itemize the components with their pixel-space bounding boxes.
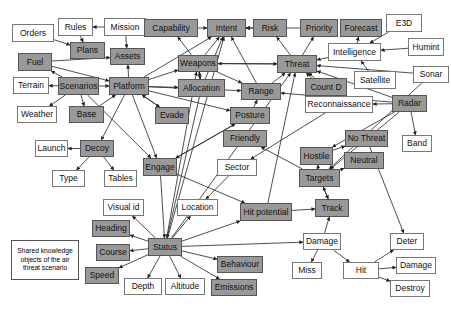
node-assets: Assets [110,48,145,65]
node-hitpotential: Hit potential [240,203,292,221]
edge-engage-to-status [161,176,165,238]
node-evade: Evade [155,107,189,124]
node-depth: Depth [124,278,162,295]
edge-evade-to-platform [142,95,159,107]
node-risk: Risk [253,19,287,37]
edge-range-to-threat [272,73,285,83]
edge-platform-to-assets [128,65,129,77]
node-fuel: Fuel [18,53,52,71]
edge-status-to-visualid [132,216,155,238]
node-mission: Mission [104,18,146,36]
node-threat: Threat [277,55,317,73]
edge-mission-to-assets [126,36,127,48]
node-deter: Deter [390,233,424,250]
legend-line-2: objects of the air [12,256,78,264]
edge-hostile-to-nothreat [333,146,345,150]
node-priority: Priority [300,19,338,37]
edge-scenarios-to-base [81,95,84,106]
node-launch: Launch [35,140,68,157]
edge-weapons-to-allocation [199,72,200,79]
edge-status-to-damage [182,242,303,246]
node-forecast: Forecast [340,19,382,37]
edge-damage-to-track [325,217,330,233]
node-speed: Speed [85,267,119,284]
node-rules: Rules [58,18,93,36]
edge-base-to-platform [99,95,115,106]
node-base: Base [69,106,104,123]
node-engage: Engage [143,158,177,176]
node-sector: Sector [217,159,257,176]
node-platform: Platform [109,77,149,95]
edge-damage-to-hit [333,250,349,262]
node-band: Band [402,135,432,152]
node-allocation: Allocation [178,79,225,97]
node-damage: Damage [303,233,341,250]
node-hit: Hit [343,262,379,279]
node-behaviour: Behaviour [217,256,263,273]
node-neutral: Neutral [344,152,384,169]
edge-hit-to-deter [374,250,393,262]
node-location: Location [177,199,218,216]
node-type: Type [52,170,85,187]
node-destroy: Destroy [390,280,430,297]
node-sonar: Sonar [413,66,449,83]
edge-decoy-to-type [77,157,89,170]
node-nothreat: No Threat [345,130,388,147]
edge-intelligence-to-threat [317,58,328,60]
node-tables: Tables [104,170,137,187]
edge-damage-to-miss [311,250,317,262]
node-intelligence: Intelligence [328,43,381,61]
node-hostile: Hostile [300,147,333,165]
node-scenarios: Scenarios [58,77,99,95]
edge-weapons-to-capability [178,37,192,55]
node-posture: Posture [230,107,270,124]
node-radar: Radar [392,95,427,112]
edge-track-to-targets [323,187,328,199]
node-orders: Orders [12,24,54,42]
edge-status-to-course [130,249,148,251]
edge-targets-to-friendly [261,147,302,169]
edge-status-to-altitude [170,256,181,278]
edge-hit-to-damage2 [379,267,396,269]
edge-threat-to-risk [277,37,291,55]
node-countd: Count D [305,78,347,96]
legend-box: Shared knowledge objects of the air thre… [11,240,79,280]
node-altitude: Altitude [165,278,205,295]
edge-scenarios-to-weather [49,95,65,106]
edge-status-to-location [172,216,190,238]
node-targets: Targets [299,169,340,187]
edge-status-to-depth [148,256,160,278]
node-status: Status [148,238,182,256]
node-decoy: Decoy [80,140,114,157]
node-damage2: Damage [396,257,436,274]
node-visualid: Visual id [103,199,144,216]
node-miss: Miss [292,262,322,279]
edge-status-to-hitpotential [182,221,240,241]
edge-hit-to-destroy [379,277,390,281]
edge-range-to-intent [231,37,256,83]
edge-status-to-heading [130,235,148,241]
node-plans: Plans [70,42,105,59]
node-intent: Intent [207,19,246,37]
node-range: Range [241,83,281,100]
edge-platform-to-engage [132,95,156,158]
node-friendly: Friendly [223,130,267,147]
node-track: Track [315,199,349,217]
node-reconnaissance: Reconnaissance [305,96,373,113]
edge-posture-to-range [254,100,257,107]
edge-hitpotential-to-track [292,209,315,210]
node-weapons: Weapons [178,55,218,72]
node-course: Course [96,244,130,261]
node-weather: Weather [17,106,57,123]
node-heading: Heading [92,220,130,237]
legend-line-1: Shared knowledge [12,247,78,255]
node-capability: Capability [144,19,198,37]
node-emissions: Emissions [211,279,257,296]
edge-decoy-to-tables [104,157,114,170]
edge-humint-to-intelligence [381,48,408,50]
node-humint: Humint [408,38,444,56]
node-e3d: E3D [386,14,422,32]
edge-status-to-behaviour [182,251,217,259]
edge-status-to-emissions [180,256,219,279]
legend-line-3: threat scenario [12,264,78,272]
